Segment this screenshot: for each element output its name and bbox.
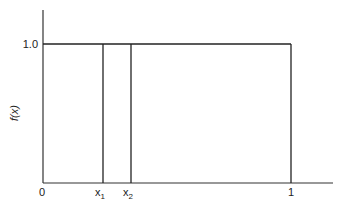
y-axis-label: f(x) bbox=[8, 105, 20, 121]
x-tick-one: 1 bbox=[288, 186, 294, 198]
y-tick-label: 1.0 bbox=[23, 38, 38, 50]
uniform-pdf-chart: 1.0 f(x) 0 x1 x2 1 bbox=[0, 0, 346, 205]
x-tick-zero: 0 bbox=[39, 186, 45, 198]
x-tick-x2: x2 bbox=[123, 186, 134, 201]
x-tick-x1: x1 bbox=[95, 186, 106, 201]
